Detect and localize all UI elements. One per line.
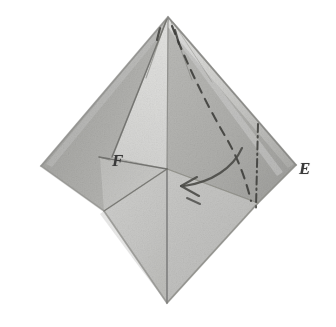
vertex-label-e: E — [299, 160, 310, 177]
origami-figure: F E — [0, 0, 336, 327]
origami-diagram-svg — [0, 0, 336, 327]
vertex-label-f: F — [112, 152, 123, 169]
